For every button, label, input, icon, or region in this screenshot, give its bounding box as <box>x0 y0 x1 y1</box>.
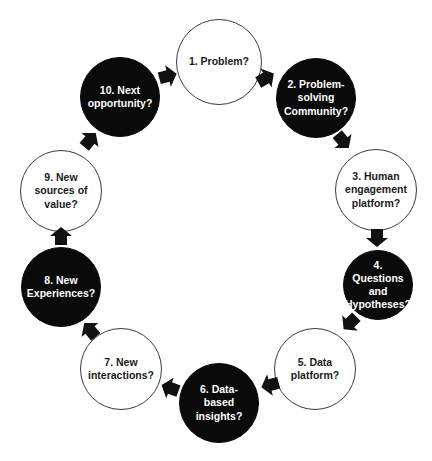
node-5-data-platform: 5. Data platform? <box>274 328 356 410</box>
node-label: 6. Data- based insights? <box>192 383 247 422</box>
node-label: 8. New Experiences? <box>23 274 99 300</box>
node-9-new-sources-of-value: 9. New sources of value? <box>20 150 102 232</box>
node-2-problem-solving-community: 2. Problem- solving Community? <box>276 58 356 138</box>
node-7-new-interactions: 7. New interactions? <box>80 328 162 410</box>
node-3-human-engagement-platform: 3. Human engagement platform? <box>335 149 417 231</box>
node-label: 5. Data platform? <box>287 356 343 382</box>
node-label: 9. New sources of value? <box>30 171 91 210</box>
node-label: 7. New interactions? <box>84 356 158 382</box>
node-label: 4. Questions and Hypotheses? <box>341 259 415 312</box>
node-1-problem: 1. Problem? <box>176 19 262 105</box>
node-4-questions-and-hypotheses: 4. Questions and Hypotheses? <box>343 250 413 320</box>
node-6-data-based-insights: 6. Data- based insights? <box>179 363 259 443</box>
node-label: 10. Next opportunity? <box>84 84 157 110</box>
cycle-diagram: 1. Problem? 2. Problem- solving Communit… <box>0 0 432 461</box>
node-8-new-experiences: 8. New Experiences? <box>21 247 101 327</box>
node-10-next-opportunity: 10. Next opportunity? <box>80 57 160 137</box>
node-label: 2. Problem- solving Community? <box>280 78 352 117</box>
node-label: 1. Problem? <box>185 55 253 68</box>
node-label: 3. Human engagement platform? <box>341 170 411 209</box>
